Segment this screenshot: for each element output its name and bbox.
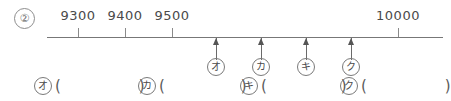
axis-tick-9500 xyxy=(172,28,173,37)
axis-tick-label-9500: 9500 xyxy=(154,8,189,23)
number-line-axis xyxy=(47,37,443,38)
answer-blank-ka[interactable] xyxy=(165,79,241,93)
answer-kana-badge-o: オ xyxy=(34,77,52,95)
kana-label-o: オ xyxy=(207,58,225,76)
arrow-marker-ku xyxy=(351,38,352,60)
answer-kana-badge-ki: キ xyxy=(240,77,258,95)
answer-entry-ka: カ ( ) xyxy=(138,76,247,96)
arrow-marker-ka xyxy=(261,38,262,60)
answer-entry-o: オ ( ) xyxy=(34,76,145,96)
kana-label-ka: カ xyxy=(252,58,270,76)
kana-label-ku: ク xyxy=(342,58,360,76)
axis-tick-9300 xyxy=(78,28,79,37)
answer-entry-ki: キ ( ) xyxy=(240,76,347,96)
problem-number-badge: ② xyxy=(14,8,35,29)
arrow-marker-ki xyxy=(306,38,307,60)
answer-blank-ku[interactable] xyxy=(367,79,445,93)
answer-kana-badge-ka: カ xyxy=(138,77,156,95)
answer-kana-badge-ku: ク xyxy=(340,77,358,95)
axis-tick-label-10000: 10000 xyxy=(376,8,420,23)
answer-blank-o[interactable] xyxy=(61,79,139,93)
answer-row: オ ( ) カ ( ) キ ( ) ク ( ) xyxy=(0,76,449,98)
answer-entry-ku: ク ( ) xyxy=(340,76,451,96)
answer-blank-ki[interactable] xyxy=(267,79,341,93)
kana-label-ki: キ xyxy=(297,58,315,76)
arrow-marker-o xyxy=(216,38,217,60)
answer-paren-close-ku: ) xyxy=(445,79,451,94)
axis-tick-9400 xyxy=(125,28,126,37)
axis-tick-10000 xyxy=(398,28,399,37)
axis-tick-label-9400: 9400 xyxy=(107,8,142,23)
axis-tick-label-9300: 9300 xyxy=(60,8,95,23)
